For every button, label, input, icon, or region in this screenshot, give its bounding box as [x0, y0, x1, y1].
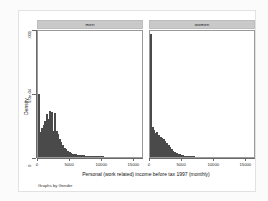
histogram-bar — [134, 157, 136, 158]
y-axis-tick — [32, 30, 36, 31]
x-axis-tick-label: 15000 — [128, 162, 140, 167]
x-axis-line-men — [37, 158, 143, 159]
histogram-bar — [141, 157, 143, 158]
x-axis-tick — [213, 158, 214, 161]
x-axis-tick-label: 5000 — [176, 162, 185, 167]
histogram-bar — [214, 157, 216, 158]
histogram-bar — [105, 157, 107, 158]
x-axis-tick — [37, 158, 38, 161]
plot-panel-men — [37, 30, 143, 158]
y-axis-tick — [32, 158, 36, 159]
histogram-bar — [131, 157, 133, 158]
histogram-bar — [211, 157, 213, 158]
histogram-bar — [234, 157, 236, 158]
x-axis-tick-label: 5000 — [64, 162, 73, 167]
histogram-bar — [128, 157, 130, 158]
y-axis-tick-label: 5.0e-04 — [27, 89, 32, 103]
x-axis-tick — [181, 158, 182, 161]
histogram-bar — [208, 157, 210, 158]
x-axis-tick-label: 10000 — [207, 162, 219, 167]
x-axis-tick-label: 0 — [36, 162, 38, 167]
histogram-bar — [227, 157, 229, 158]
x-axis-tick — [149, 158, 150, 161]
x-axis-title: Personal (work related) income before ta… — [37, 171, 255, 177]
panel-strip-men-label: men — [86, 22, 95, 27]
x-axis-tick — [101, 158, 102, 161]
graph-canvas: Density Personal (work related) income b… — [18, 10, 256, 192]
histogram-bar — [217, 157, 219, 158]
x-axis-line-women — [149, 158, 255, 159]
screenshot-root: Density Personal (work related) income b… — [0, 0, 268, 201]
panel-strip-women-label: women — [195, 22, 210, 27]
x-axis-tick — [69, 158, 70, 161]
histogram-bar — [118, 157, 120, 158]
x-axis-tick-label: 15000 — [240, 162, 252, 167]
histogram-bar — [125, 157, 127, 158]
panel-strip-men: men — [37, 20, 143, 29]
histogram-bars-men — [38, 31, 142, 157]
x-axis-tick-label: 0 — [148, 162, 150, 167]
histogram-bar — [122, 157, 124, 158]
histogram-bar — [138, 157, 140, 158]
y-axis-tick-label: .001 — [27, 31, 32, 39]
histogram-bar — [115, 157, 117, 158]
y-axis-tick-label: 0 — [27, 165, 32, 167]
histogram-bar — [221, 157, 223, 158]
histogram-bar — [112, 157, 114, 158]
histogram-bar — [102, 156, 104, 157]
x-axis-tick — [245, 158, 246, 161]
panel-strip-women: women — [149, 20, 255, 29]
plot-panel-women — [149, 30, 255, 158]
x-axis-tick — [133, 158, 134, 161]
histogram-bar — [230, 157, 232, 158]
graph-note: Graphs by Gender — [38, 183, 72, 188]
x-axis-tick-label: 10000 — [95, 162, 107, 167]
histogram-bar — [109, 157, 111, 158]
y-axis-tick — [32, 94, 36, 95]
histogram-bars-women — [150, 31, 254, 157]
histogram-bar — [224, 157, 226, 158]
